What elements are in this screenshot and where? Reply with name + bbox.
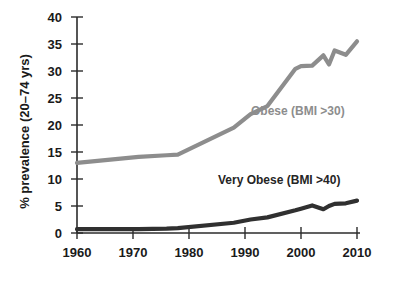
x-tick-label-1990: 1990 xyxy=(231,246,260,259)
x-tick-label-1980: 1980 xyxy=(175,246,204,259)
y-axis-title: % prevalence (20–74 yrs) xyxy=(18,32,31,232)
x-tick-label-2000: 2000 xyxy=(287,246,316,259)
y-tick-label-0: 0 xyxy=(32,227,62,240)
series-label-obese: Obese (BMI >30) xyxy=(251,105,345,117)
y-tick-label-40: 40 xyxy=(32,11,62,24)
y-tick-label-10: 10 xyxy=(32,173,62,186)
y-tick-label-5: 5 xyxy=(32,200,62,213)
series-label-very-obese: Very Obese (BMI >40) xyxy=(218,174,340,186)
x-tick-label-1970: 1970 xyxy=(119,246,148,259)
series-line-very-obese xyxy=(77,201,357,230)
y-tick-label-20: 20 xyxy=(32,119,62,132)
y-tick-label-30: 30 xyxy=(32,65,62,78)
y-tick-label-15: 15 xyxy=(32,146,62,159)
y-tick-label-25: 25 xyxy=(32,92,62,105)
series-line-obese xyxy=(77,41,357,163)
obesity-prevalence-chart: 40 35 30 25 20 15 10 5 0 1960 1970 1980 … xyxy=(0,0,402,281)
x-tick-label-2010: 2010 xyxy=(343,246,372,259)
x-tick-label-1960: 1960 xyxy=(63,246,92,259)
y-tick-label-35: 35 xyxy=(32,38,62,51)
